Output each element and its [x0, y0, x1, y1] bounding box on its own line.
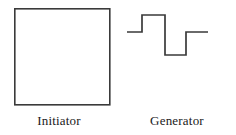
generator-waveform-graphic [118, 0, 236, 113]
initiator-square-outline [15, 9, 110, 105]
generator-panel: Generator [118, 0, 236, 135]
initiator-caption: Initiator [0, 113, 118, 128]
figure-root: Initiator Generator [0, 0, 236, 135]
generator-caption: Generator [118, 113, 236, 128]
initiator-square-graphic [0, 0, 118, 113]
generator-step-waveform-path [127, 15, 208, 55]
initiator-panel: Initiator [0, 0, 118, 135]
